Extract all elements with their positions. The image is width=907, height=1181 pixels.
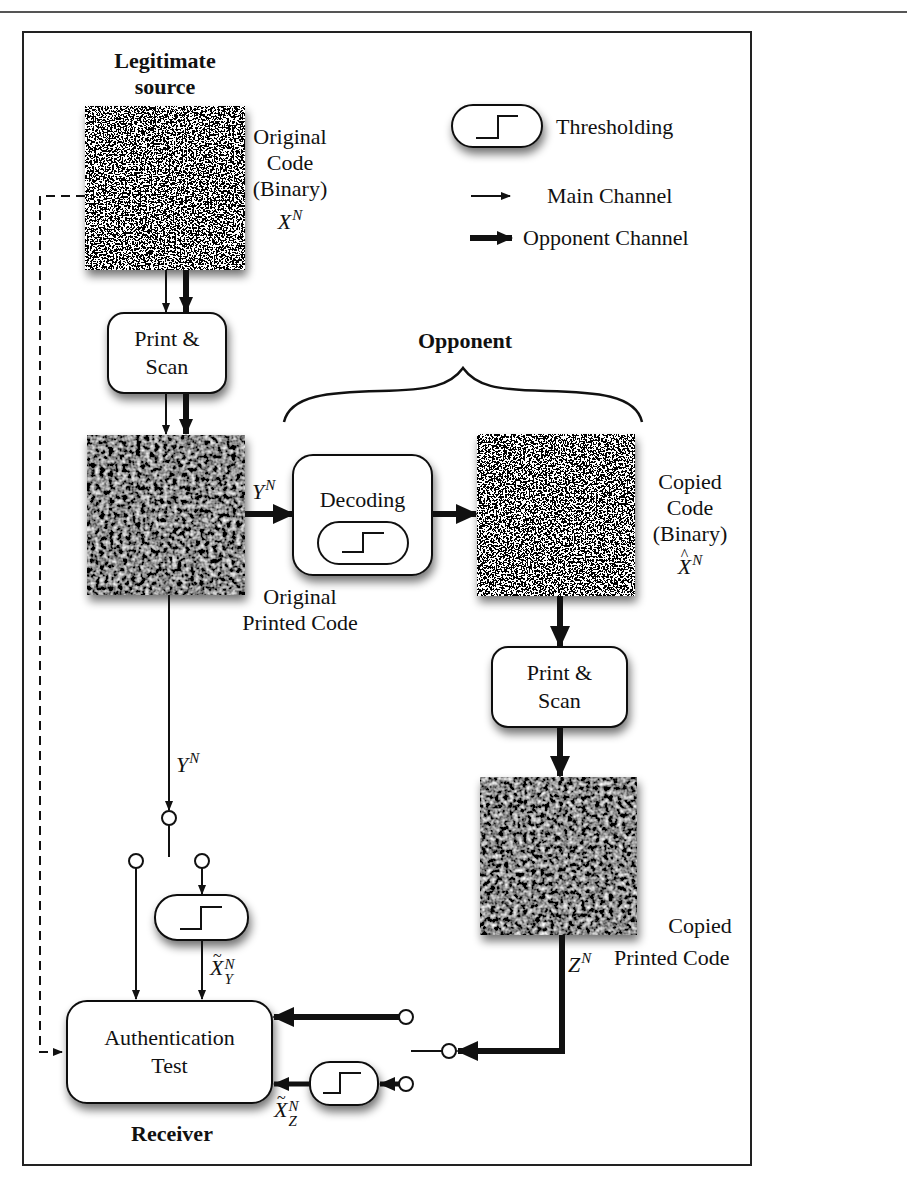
legend-opponent-channel-label: Opponent Channel <box>523 225 689 251</box>
opponent-brace <box>284 368 642 422</box>
copied-code-label: Copied Code (Binary) ^XN <box>650 469 730 580</box>
original-printed-code-image <box>87 435 245 595</box>
threshold-box-z <box>310 1062 378 1105</box>
reference-dashed-line <box>40 196 85 1052</box>
y-n-opponent-label: YN <box>252 472 275 505</box>
print-scan-2-label: Print & Scan <box>492 647 627 727</box>
original-code-image <box>85 106 245 270</box>
y-n-raw-terminal[interactable] <box>129 854 143 868</box>
x-hat-n-symbol: ^XN <box>650 547 730 580</box>
z-n-threshold-terminal[interactable] <box>399 1077 413 1091</box>
legitimate-source-title: Legitimate source <box>90 48 240 100</box>
threshold-box-y <box>155 895 248 940</box>
legend-main-channel-label: Main Channel <box>547 183 672 209</box>
copied-printed-code-image <box>480 777 637 935</box>
opponent-title: Opponent <box>400 328 530 354</box>
legend-thresholding-label: Thresholding <box>556 114 673 140</box>
decoding-threshold-icon <box>318 522 408 564</box>
copied-printed-code-label: Copied <box>640 913 760 939</box>
z-n-label: ZN <box>568 945 591 978</box>
x-n-symbol: XN <box>250 202 330 235</box>
z-n-opponent-path <box>458 935 562 1051</box>
y-n-threshold-terminal[interactable] <box>195 854 209 868</box>
z-n-switch-pivot[interactable] <box>442 1044 456 1058</box>
y-n-switch-pivot[interactable] <box>162 811 176 825</box>
print-scan-1-label: Print & Scan <box>108 313 226 393</box>
legend-threshold-icon <box>452 105 542 147</box>
copied-printed-code-label-line2: Printed Code <box>614 945 730 971</box>
y-n-main-label: YN <box>176 745 199 778</box>
original-printed-code-label: Original Printed Code <box>225 584 375 636</box>
original-code-label: Original Code (Binary) XN <box>250 124 330 235</box>
authentication-test-label: Authentication Test <box>67 1001 272 1103</box>
receiver-title: Receiver <box>112 1121 232 1147</box>
copied-code-image <box>477 434 635 596</box>
x-tilde-y-label: ~XNY <box>210 955 239 981</box>
decoding-label: Decoding <box>293 487 432 513</box>
z-n-raw-terminal[interactable] <box>399 1010 413 1024</box>
x-tilde-z-label: ~XNZ <box>274 1097 303 1123</box>
